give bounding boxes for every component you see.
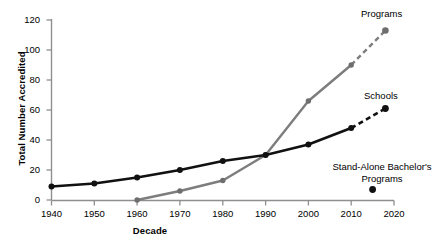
x-tick-label-1940: 1940 xyxy=(32,208,72,219)
x-tick-label-1950: 1950 xyxy=(74,208,114,219)
schools-series-label: Schools xyxy=(364,90,398,101)
standalone-bachelors-data-marker xyxy=(369,186,376,193)
x-axis-ticks xyxy=(52,201,395,206)
x-tick-label-1970: 1970 xyxy=(160,208,200,219)
y-axis-ticks xyxy=(47,20,52,200)
programs-series-line xyxy=(137,65,351,200)
y-tick-label-40: 40 xyxy=(10,134,40,145)
standalone-label-line-1: Stand-Alone Bachelor's xyxy=(333,161,432,172)
x-tick-label-2020: 2020 xyxy=(374,208,414,219)
x-tick-label-2000: 2000 xyxy=(288,208,328,219)
y-tick-label-20: 20 xyxy=(10,164,40,175)
programs-series-dashed-tail xyxy=(351,31,385,66)
standalone-label-line-2: Programs xyxy=(361,173,402,184)
x-axis-title: Decade xyxy=(0,225,300,236)
y-tick-label-60: 60 xyxy=(10,104,40,115)
chart-container: Total Number Accredited Decade 0 20 40 6… xyxy=(0,0,441,248)
x-tick-label-1980: 1980 xyxy=(203,208,243,219)
y-tick-label-0: 0 xyxy=(10,194,40,205)
programs-series-label: Programs xyxy=(361,8,402,19)
y-tick-label-100: 100 xyxy=(10,44,40,55)
schools-series-dashed-tail xyxy=(351,109,385,129)
standalone-bachelors-series-label: Stand-Alone Bachelor's Programs xyxy=(322,161,441,184)
y-tick-label-80: 80 xyxy=(10,74,40,85)
x-tick-label-2010: 2010 xyxy=(331,208,371,219)
x-tick-label-1960: 1960 xyxy=(117,208,157,219)
y-tick-label-120: 120 xyxy=(10,14,40,25)
x-tick-label-1990: 1990 xyxy=(246,208,286,219)
schools-series-line xyxy=(52,128,352,187)
